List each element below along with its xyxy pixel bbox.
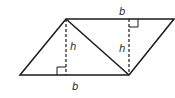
label-left-height: h (70, 41, 76, 52)
label-bottom-base: b (72, 81, 78, 92)
label-top-base: b (119, 6, 125, 17)
label-right-height: h (119, 43, 125, 54)
right-angle-marker-top (129, 19, 138, 27)
parallelogram-diagram: b h h b (0, 0, 175, 98)
right-angle-marker-bottom (57, 67, 66, 75)
